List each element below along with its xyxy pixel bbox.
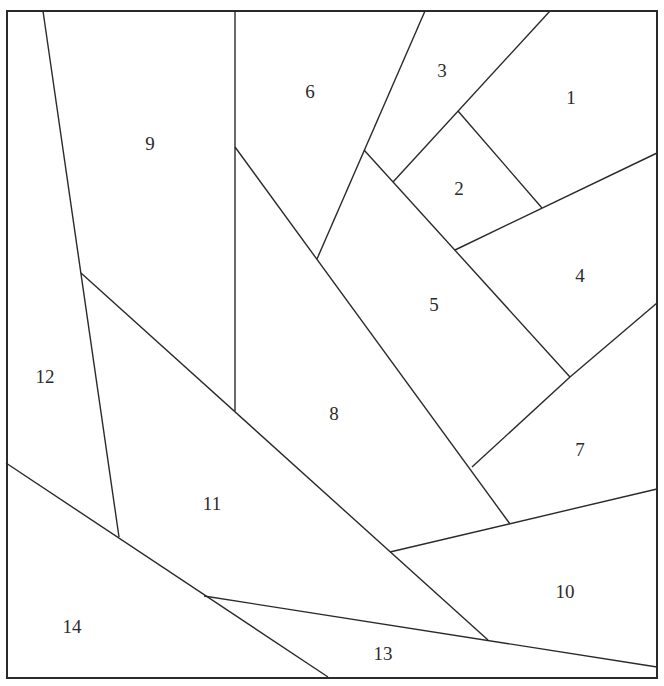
boundary-line-edge-13-top: [204, 596, 657, 667]
region-label-11: 11: [203, 493, 221, 514]
region-label-3: 3: [437, 60, 447, 81]
region-label-1: 1: [566, 87, 576, 108]
region-label-6: 6: [305, 81, 315, 102]
boundary-line-edge-4-7: [570, 303, 657, 377]
boundary-line-edge-6-right: [317, 11, 425, 259]
boundary-line-edge-5-7: [472, 377, 570, 467]
boundary-line-edge-4-top: [455, 153, 657, 250]
boundary-line-edge-14-top: [6, 463, 328, 677]
region-label-12: 12: [36, 366, 55, 387]
region-label-2: 2: [454, 178, 464, 199]
diagram-canvas: 1234567891011121314: [0, 0, 664, 686]
boundary-line-edge-8-top: [235, 147, 510, 524]
paper-piecing-diagram: 1234567891011121314: [0, 0, 664, 686]
boundary-line-edge-3-right: [393, 11, 550, 182]
region-label-4: 4: [575, 265, 585, 286]
region-label-8: 8: [329, 403, 339, 424]
boundary-line-edge-11-top: [81, 273, 488, 640]
boundary-line-edge-5-top: [364, 150, 570, 377]
region-label-13: 13: [374, 643, 393, 664]
boundary-line-edge-10-top: [390, 489, 657, 552]
region-label-9: 9: [145, 133, 155, 154]
region-label-5: 5: [429, 294, 439, 315]
region-label-10: 10: [556, 581, 575, 602]
region-label-14: 14: [63, 616, 83, 637]
region-label-7: 7: [575, 439, 585, 460]
boundary-line-edge-1-2: [458, 111, 542, 208]
diagram-border: [7, 11, 657, 678]
boundary-line-edge-12-right: [43, 11, 119, 537]
